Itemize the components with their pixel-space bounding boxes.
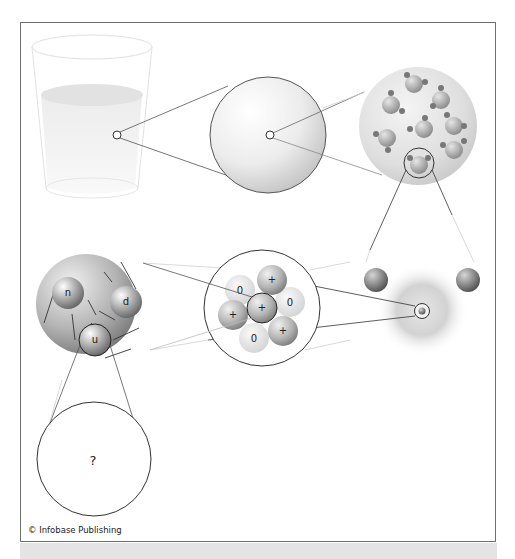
hydrogen-atom — [364, 268, 388, 292]
svg-text:?: ? — [90, 453, 97, 468]
scale-diagram: 0 0 0 + + + + — [0, 0, 515, 559]
copyright-credit: © Infobase Publishing — [28, 525, 122, 535]
unknown-view: ? — [37, 402, 151, 516]
svg-text:u: u — [92, 334, 98, 345]
quark-u-highlighted: u — [79, 324, 111, 356]
zoom-point-droplet — [266, 131, 274, 139]
svg-text:d: d — [123, 296, 129, 307]
nucleon-proton: + — [257, 265, 287, 295]
nucleon-neutron: 0 — [239, 323, 269, 353]
nucleus-view: 0 0 0 + + + + — [204, 250, 320, 366]
svg-text:+: + — [279, 325, 287, 336]
svg-text:+: + — [229, 309, 237, 320]
nucleon-view: n d u — [36, 254, 142, 358]
svg-text:+: + — [268, 274, 276, 285]
droplet-sphere — [210, 77, 326, 193]
svg-text:n: n — [65, 287, 71, 298]
nucleon-proton: + — [218, 300, 248, 330]
svg-text:+: + — [258, 302, 266, 313]
quark-d: d — [110, 286, 142, 318]
atom-cloud — [364, 264, 480, 356]
nucleon-proton: + — [268, 316, 298, 346]
water-molecules-sphere — [359, 67, 477, 185]
svg-text:0: 0 — [287, 297, 293, 308]
quark-n: n — [52, 277, 84, 309]
glass-of-water — [32, 35, 152, 198]
atomic-nucleus-point — [419, 308, 426, 315]
zoom-point-glass — [113, 131, 121, 139]
svg-text:0: 0 — [251, 333, 257, 344]
hydrogen-atom — [456, 268, 480, 292]
